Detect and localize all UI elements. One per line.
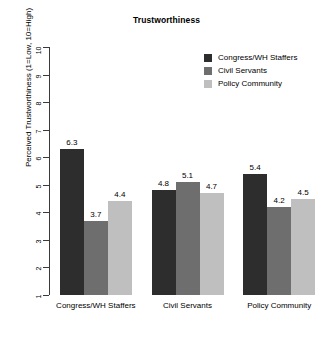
y-tick-label: 5	[35, 184, 42, 202]
y-tick-label: 9	[35, 74, 42, 92]
y-tick-mark	[43, 295, 49, 296]
legend-swatch-icon	[204, 80, 212, 88]
y-tick-label: 7	[35, 129, 42, 147]
legend-label: Congress/WH Staffers	[218, 54, 297, 62]
bar	[243, 174, 267, 295]
bar	[60, 149, 84, 295]
bar-value-label: 4.7	[196, 182, 228, 191]
bar-value-label: 3.7	[80, 210, 112, 219]
y-tick-mark	[43, 240, 49, 241]
y-tick-label: 2	[35, 267, 42, 285]
y-tick-mark	[43, 267, 49, 268]
chart-title: Trustworthiness	[0, 15, 333, 25]
bar	[176, 182, 200, 295]
y-tick-label: 10	[35, 47, 42, 65]
chart-legend: Congress/WH StaffersCivil ServantsPolicy…	[204, 52, 297, 91]
legend-label: Policy Community	[218, 80, 282, 88]
y-tick-mark	[43, 102, 49, 103]
y-tick-mark	[43, 130, 49, 131]
y-tick-label: 3	[35, 239, 42, 257]
chart-figure: Trustworthiness Perceived Trustworthines…	[0, 0, 333, 339]
bar-value-label: 5.4	[239, 163, 271, 172]
bar-value-label: 6.3	[56, 138, 88, 147]
y-tick-mark	[43, 185, 49, 186]
y-tick-mark	[43, 75, 49, 76]
bar	[152, 190, 176, 295]
legend-item: Policy Community	[204, 78, 297, 90]
y-axis-title: Perceived Trustworthiness (1=Low, 10=Hig…	[24, 0, 33, 198]
bar	[200, 193, 224, 295]
bar-value-label: 4.4	[104, 190, 136, 199]
y-tick-mark	[43, 157, 49, 158]
legend-swatch-icon	[204, 67, 212, 75]
x-group-label: Policy Community	[213, 301, 333, 310]
bar	[267, 207, 291, 295]
legend-item: Congress/WH Staffers	[204, 52, 297, 64]
legend-swatch-icon	[204, 54, 212, 62]
bar-value-label: 4.2	[263, 196, 295, 205]
bar-value-label: 4.5	[287, 188, 319, 197]
y-tick-label: 4	[35, 212, 42, 230]
y-tick-label: 8	[35, 102, 42, 120]
y-tick-mark	[43, 212, 49, 213]
bar-value-label: 4.8	[148, 179, 180, 188]
bar-value-label: 5.1	[172, 171, 204, 180]
y-tick-mark	[43, 47, 49, 48]
legend-label: Civil Servants	[218, 67, 267, 75]
legend-item: Civil Servants	[204, 65, 297, 77]
bar	[291, 199, 315, 295]
y-tick-label: 6	[35, 157, 42, 175]
bar	[84, 221, 108, 295]
